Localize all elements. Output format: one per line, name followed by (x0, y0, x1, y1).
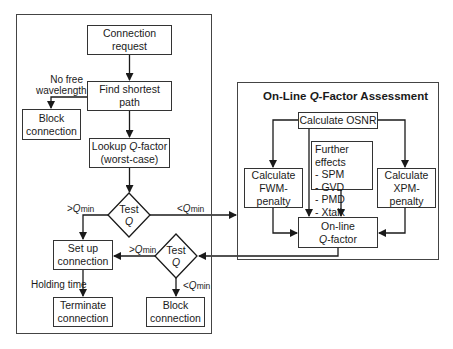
label-gt-qmin-1: >Qmin (67, 203, 94, 215)
node-test-q-2: Test Q (156, 244, 196, 268)
label-lt-qmin-1: <Qmin (177, 203, 204, 215)
node-online-q-factor: On-line Q-factor (298, 217, 378, 248)
node-test-q-1: Test Q (109, 203, 149, 227)
label-gt-qmin-2: >Qmin (129, 244, 156, 256)
node-further-effects: Further effects - SPM - GVD - PMD - Xtal… (311, 141, 373, 190)
label-lt-qmin-2: <Qmin (183, 280, 210, 292)
node-lookup-q-factor: Lookup Q-factor (worst-case) (89, 138, 170, 168)
node-find-shortest-path: Find shortest path (87, 81, 172, 111)
label-no-free-wavelength: No free wavelength (36, 74, 83, 96)
node-block-connection-top: Block connection (22, 109, 81, 140)
node-calculate-xpm-penalty: Calculate XPM-penalty (377, 168, 436, 208)
node-block-connection-bottom: Block connection (146, 297, 205, 327)
node-set-up-connection: Set up connection (53, 240, 113, 270)
label-holding-time: Holding time (31, 279, 87, 291)
node-connection-request: Connection request (87, 25, 172, 55)
online-q-assessment-title: On-Line Q-Factor Assessment (263, 90, 428, 102)
node-terminate-connection: Terminate connection (53, 297, 113, 327)
node-calculate-fwm-penalty: Calculate FWM-penalty (244, 168, 303, 208)
node-calculate-osnr: Calculate OSNR (298, 112, 378, 129)
